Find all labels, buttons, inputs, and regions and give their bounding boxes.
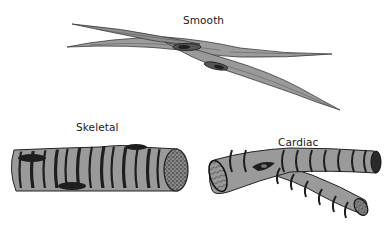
smooth-muscle-illustration [67,24,340,110]
skeletal-cut-end [164,149,188,191]
skeletal-nucleus-3 [125,144,147,150]
muscle-types-figure: Smooth Skeletal Cardiac [0,0,389,235]
skeletal-muscle-illustration [11,144,188,194]
label-cardiac: Cardiac [278,136,318,148]
cardiac-muscle-illustration [205,148,381,218]
skeletal-nucleus-1 [18,154,46,162]
cardiac-end-right [371,151,381,173]
skeletal-nucleus-2 [58,182,86,190]
figure-canvas [0,0,389,235]
label-smooth: Smooth [183,14,224,26]
label-skeletal: Skeletal [76,121,118,133]
